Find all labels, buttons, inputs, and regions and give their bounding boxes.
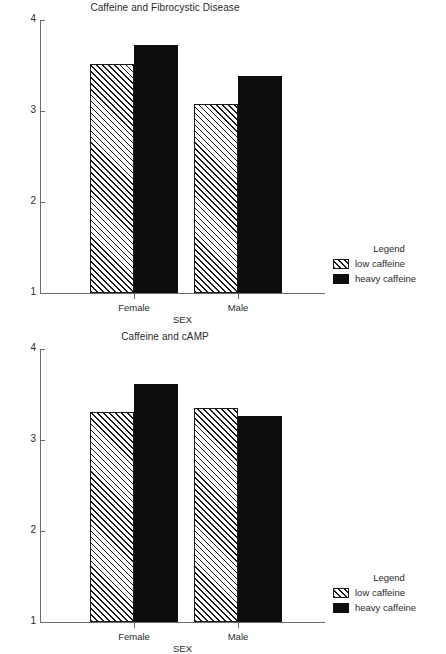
legend-title: Legend xyxy=(339,243,439,254)
bar-female-low-caffeine xyxy=(90,64,134,293)
y-axis-tick xyxy=(40,293,45,294)
y-axis-tick xyxy=(40,202,45,203)
chart-panel-fibrocystic-disease: Caffeine and Fibrocystic Disease1234Fema… xyxy=(0,0,446,325)
plot-area: 1234FemaleMaleSEXLegendlow caffeineheavy… xyxy=(0,329,446,654)
y-axis-tick-label: 2 xyxy=(18,195,36,206)
legend: Legendlow caffeineheavy caffeine xyxy=(333,572,446,613)
legend-item: low caffeine xyxy=(333,258,446,269)
legend-swatch-low-caffeine-icon xyxy=(333,259,349,269)
legend-title: Legend xyxy=(339,572,439,583)
x-axis-tick xyxy=(238,622,239,628)
y-axis-tick xyxy=(40,622,45,623)
bar-male-low-caffeine xyxy=(194,104,238,293)
x-axis-tick xyxy=(134,293,135,299)
y-axis-tick-label: 4 xyxy=(18,342,36,353)
y-axis-tick xyxy=(40,20,45,21)
bar-male-low-caffeine xyxy=(194,408,238,622)
y-axis-tick-label: 1 xyxy=(18,286,36,297)
x-axis-title: SEX xyxy=(40,314,325,325)
legend: Legendlow caffeineheavy caffeine xyxy=(333,243,446,284)
y-axis-tick xyxy=(40,531,45,532)
y-axis-tick xyxy=(40,349,45,350)
legend-item: heavy caffeine xyxy=(333,273,446,284)
legend-item: low caffeine xyxy=(333,587,446,598)
x-axis-tick xyxy=(134,622,135,628)
chart-panel-camp: Caffeine and cAMP1234FemaleMaleSEXLegend… xyxy=(0,329,446,654)
bar-male-heavy-caffeine xyxy=(238,416,282,622)
legend-swatch-low-caffeine-icon xyxy=(333,588,349,598)
legend-label: low caffeine xyxy=(355,587,405,598)
legend-label: heavy caffeine xyxy=(355,602,416,613)
y-axis-tick-label: 3 xyxy=(18,433,36,444)
legend-item: heavy caffeine xyxy=(333,602,446,613)
legend-label: heavy caffeine xyxy=(355,273,416,284)
x-axis-title: SEX xyxy=(40,643,325,654)
y-axis-tick xyxy=(40,111,45,112)
x-axis-line xyxy=(40,293,325,294)
y-axis-tick-label: 2 xyxy=(18,524,36,535)
y-axis-line xyxy=(40,20,41,293)
x-axis-tick-label: Female xyxy=(94,302,174,313)
y-axis-tick-label: 3 xyxy=(18,104,36,115)
bar-female-heavy-caffeine xyxy=(134,384,178,622)
y-axis-tick xyxy=(40,440,45,441)
legend-label: low caffeine xyxy=(355,258,405,269)
x-axis-tick-label: Male xyxy=(198,302,278,313)
x-axis-tick-label: Female xyxy=(94,631,174,642)
bar-male-heavy-caffeine xyxy=(238,76,282,293)
plot-area: 1234FemaleMaleSEXLegendlow caffeineheavy… xyxy=(0,0,446,325)
y-axis-tick-label: 4 xyxy=(18,13,36,24)
x-axis-tick-label: Male xyxy=(198,631,278,642)
x-axis-line xyxy=(40,622,325,623)
legend-swatch-heavy-caffeine-icon xyxy=(333,274,349,284)
x-axis-tick xyxy=(238,293,239,299)
y-axis-tick-label: 1 xyxy=(18,615,36,626)
bar-female-low-caffeine xyxy=(90,412,134,622)
legend-swatch-heavy-caffeine-icon xyxy=(333,603,349,613)
y-axis-line xyxy=(40,349,41,622)
bar-female-heavy-caffeine xyxy=(134,45,178,293)
